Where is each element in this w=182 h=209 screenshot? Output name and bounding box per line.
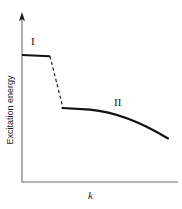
branch-I-curve xyxy=(22,55,50,56)
excitation-energy-figure: Excitation energy k I II xyxy=(0,0,182,209)
branch-I-label: I xyxy=(31,35,35,47)
plot-canvas xyxy=(0,0,182,209)
y-axis-label: Excitation energy xyxy=(5,60,15,160)
branch-II-label: II xyxy=(114,96,121,108)
branch-II-curve xyxy=(63,108,169,139)
transition-dashed-line xyxy=(50,56,63,108)
x-axis-label: k xyxy=(88,189,93,201)
